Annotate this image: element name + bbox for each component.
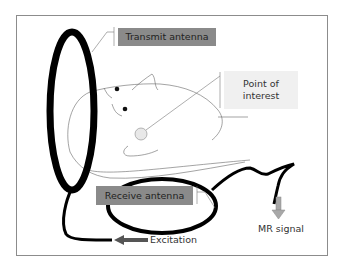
mr-signal-label: MR signal [256, 222, 306, 236]
excitation-label: Excitation [150, 233, 200, 247]
point-of-interest-text-line1: Point of [243, 78, 279, 90]
point-of-interest-text-line2: interest [243, 90, 279, 102]
eye-icon [115, 87, 120, 92]
receive-antenna-text: Receive antenna [105, 190, 185, 202]
eye-icon [123, 107, 128, 112]
transmit-antenna-label: Transmit antenna [118, 28, 216, 46]
point-of-interest-label: Point of interest [224, 71, 298, 109]
mr-signal-text: MR signal [258, 223, 304, 235]
receive-antenna-label: Receive antenna [96, 186, 193, 205]
point-of-interest-marker [135, 128, 147, 140]
transmit-antenna-text: Transmit antenna [125, 31, 208, 43]
excitation-text: Excitation [150, 234, 197, 246]
